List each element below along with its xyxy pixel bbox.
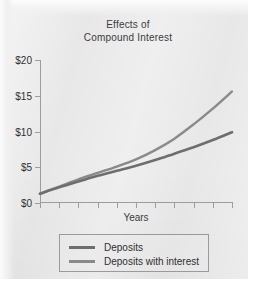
y-axis-label: $20 (15, 55, 32, 66)
paper-top-highlight (0, 0, 248, 16)
chart-page: Effects of Compound Interest $0$5$10$15$… (0, 0, 264, 290)
y-axis-label: $10 (15, 126, 32, 137)
y-axis-label: $0 (21, 198, 32, 209)
legend-box: Deposits Deposits with interest (59, 234, 209, 272)
legend-item-deposits: Deposits (69, 241, 143, 253)
x-axis-tick (232, 202, 233, 208)
x-axis-title: Years (40, 212, 232, 223)
y-axis-label: $15 (15, 90, 32, 101)
legend-item-deposits-with-interest: Deposits with interest (69, 255, 199, 267)
paper-left-highlight (0, 0, 14, 279)
chart-title-line-2: Compound Interest (38, 31, 218, 44)
legend-swatch-deposits-with-interest (69, 260, 95, 263)
chart-title-line-1: Effects of (38, 18, 218, 31)
legend-swatch-deposits (69, 246, 95, 249)
chart-title: Effects of Compound Interest (38, 18, 218, 44)
legend-label-deposits: Deposits (104, 242, 143, 253)
series-line-deposits (40, 132, 232, 193)
y-axis-label: $5 (21, 162, 32, 173)
series-lines (40, 60, 232, 203)
plot-area: $0$5$10$15$20 (40, 60, 232, 203)
legend-label-deposits-with-interest: Deposits with interest (104, 256, 199, 267)
